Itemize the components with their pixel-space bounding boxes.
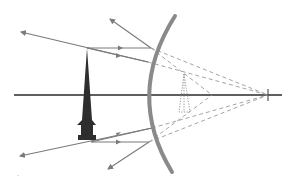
convex-mirror-diagram — [0, 0, 294, 183]
object-arrow — [77, 48, 96, 140]
virtual-image — [179, 74, 190, 112]
convex-mirror — [149, 16, 175, 172]
caption-mark: · — [17, 172, 19, 179]
